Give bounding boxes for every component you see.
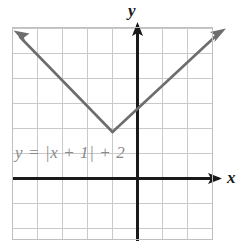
graph-figure: y x y = |x + 1| + 2 — [0, 0, 240, 247]
x-axis — [12, 173, 222, 184]
x-axis-label: x — [227, 169, 236, 186]
y-axis — [132, 22, 143, 241]
equation-annotation: y = |x + 1| + 2 — [15, 143, 125, 163]
coordinate-plane — [0, 0, 240, 247]
curve-right-branch — [113, 33, 220, 132]
y-axis-label: y — [128, 2, 136, 19]
function-curve — [14, 29, 227, 133]
curve-left-branch — [20, 37, 113, 132]
curve-left-arrowhead — [14, 31, 30, 45]
